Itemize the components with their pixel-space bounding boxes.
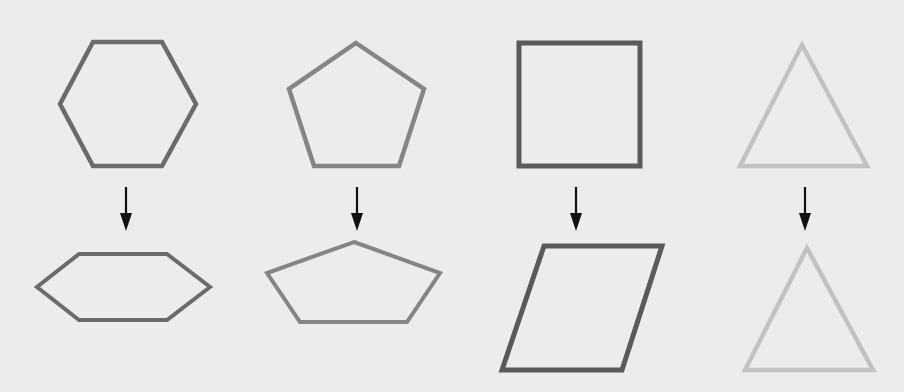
- diagram-canvas: [0, 0, 904, 392]
- triangle-column: [740, 45, 873, 370]
- hexagon-flattened: [37, 254, 210, 320]
- triangle-transformed: [745, 248, 873, 370]
- pentagon-original: [289, 43, 424, 166]
- down-arrow-icon: [351, 187, 363, 231]
- square-original: [519, 43, 640, 166]
- hexagon-original: [60, 42, 196, 166]
- pentagon-flattened: [267, 242, 440, 322]
- square-column: [502, 43, 662, 370]
- triangle-original: [740, 45, 867, 166]
- parallelogram-transformed: [502, 246, 662, 370]
- pentagon-column: [267, 43, 440, 322]
- down-arrow-icon: [799, 187, 811, 231]
- hexagon-column: [37, 42, 210, 320]
- down-arrow-icon: [570, 187, 582, 231]
- shapes-diagram: [0, 0, 904, 392]
- down-arrow-icon: [120, 187, 132, 231]
